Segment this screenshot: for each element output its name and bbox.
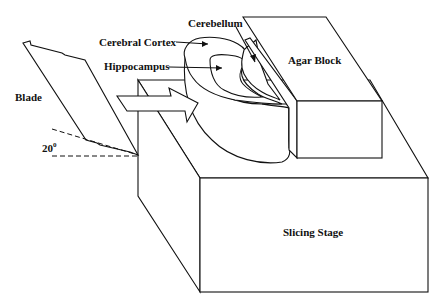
agar-front-face xyxy=(297,101,382,158)
label-angle: 200 xyxy=(42,141,57,154)
label-cerebellum: Cerebellum xyxy=(188,17,243,29)
label-agar-block: Agar Block xyxy=(288,54,342,66)
label-hippocampus: Hippocampus xyxy=(104,60,170,72)
label-cerebral-cortex: Cerebral Cortex xyxy=(99,36,177,48)
label-blade: Blade xyxy=(15,91,42,103)
slicing-diagram: Cerebellum Cerebral Cortex Hippocampus A… xyxy=(0,0,442,308)
label-slicing-stage: Slicing Stage xyxy=(283,226,343,238)
